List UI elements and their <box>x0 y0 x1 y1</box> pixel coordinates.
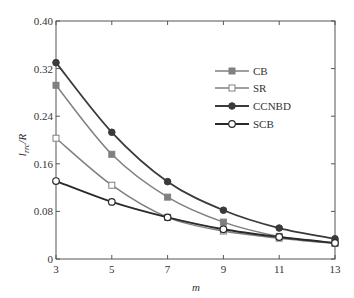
x-tick-label: 3 <box>53 263 59 275</box>
legend-label: SR <box>253 82 267 94</box>
legend-item-scb: SCB <box>215 118 274 130</box>
series-sr <box>53 135 338 246</box>
y-tick-label: 0.08 <box>34 205 54 217</box>
series-ccnbd <box>53 59 339 242</box>
x-tick-label: 5 <box>109 263 115 275</box>
legend-item-cb: CB <box>215 65 268 77</box>
series-cb <box>53 82 338 246</box>
x-tick-label: 9 <box>221 263 227 275</box>
y-axis-ticks: 00.080.160.240.320.40 <box>34 15 335 265</box>
y-tick-label: 0.24 <box>34 110 54 122</box>
x-tick-label: 13 <box>330 263 342 275</box>
legend-item-sr: SR <box>215 82 267 94</box>
y-axis-label: lrrc/R <box>16 134 31 157</box>
line-chart: 00.080.160.240.320.40 35791113 CBSRCCNBD… <box>0 0 354 298</box>
legend-label: CB <box>253 65 268 77</box>
x-tick-label: 11 <box>274 263 285 275</box>
y-tick-label: 0.16 <box>34 158 54 170</box>
data-series <box>53 59 339 246</box>
legend-label: CCNBD <box>253 100 291 112</box>
y-tick-label: 0.40 <box>34 15 54 27</box>
x-axis-ticks: 35791113 <box>53 21 341 275</box>
x-axis-label: m <box>192 281 200 293</box>
legend: CBSRCCNBDSCB <box>215 65 291 130</box>
y-tick-label: 0.32 <box>34 63 53 75</box>
legend-item-ccnbd: CCNBD <box>215 100 291 112</box>
x-tick-label: 7 <box>165 263 171 275</box>
legend-label: SCB <box>253 118 274 130</box>
